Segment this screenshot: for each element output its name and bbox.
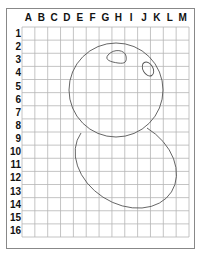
head-circle: [69, 43, 163, 137]
grid-drawing: [0, 0, 199, 257]
eye-left-icon: [107, 51, 126, 64]
grid-lines: [22, 27, 189, 237]
eye-right-icon: [140, 60, 156, 78]
body-ellipse: [75, 128, 176, 208]
